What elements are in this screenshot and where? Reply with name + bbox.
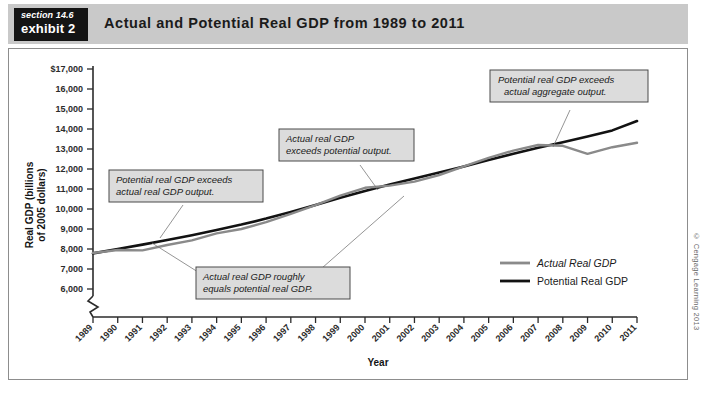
x-tick-label: 2002 [395, 322, 416, 343]
callout-line2: equals potential real GDP. [203, 283, 313, 294]
legend: Actual Real GDP Potential Real GDP [500, 257, 628, 287]
callout-potential-exceeds-aggregate: Potential real GDP exceeds actual aggreg… [490, 70, 648, 102]
y-tick-label: 12,000 [55, 164, 83, 174]
callout-line1: Actual real GDP [285, 133, 355, 144]
x-tick-label: 1993 [172, 322, 193, 343]
callout-actual-exceeds-potential: Actual real GDP exceeds potential output… [279, 129, 414, 161]
y-tick-label: 10,000 [55, 204, 83, 214]
x-tick-label: 1998 [296, 322, 317, 343]
x-tick-label: 2000 [345, 322, 366, 343]
x-tick-label: 1992 [147, 322, 168, 343]
callout-line2: actual real GDP output. [116, 186, 214, 197]
callout-line2: exceeds potential output. [286, 145, 392, 156]
x-tick-label: 2001 [370, 322, 391, 343]
y-axis-tick-labels: $17,000 16,000 15,000 14,000 13,000 12,0… [50, 64, 83, 294]
x-tick-label: 2009 [568, 322, 589, 343]
y-tick-label: 9,000 [60, 224, 83, 234]
x-tick-label: 1991 [123, 322, 144, 343]
y-tick-label: 7,000 [60, 264, 83, 274]
callout-potential-exceeds-actual: Potential real GDP exceeds actual real G… [109, 170, 263, 202]
y-tick-label: $17,000 [50, 64, 83, 74]
callout-line2: actual aggregate output. [504, 86, 606, 97]
leader-line [152, 243, 198, 272]
legend-label-potential: Potential Real GDP [537, 275, 628, 287]
x-tick-label: 1989 [73, 322, 94, 343]
x-tick-label: 1996 [246, 322, 267, 343]
x-tick-label: 2007 [518, 322, 539, 343]
x-tick-label: 2011 [618, 322, 639, 343]
chart-canvas: $17,000 16,000 15,000 14,000 13,000 12,0… [0, 0, 703, 395]
leader-line [322, 196, 404, 268]
x-tick-label: 2003 [419, 322, 440, 343]
y-tick-label: 14,000 [55, 124, 83, 134]
x-axis-tick-labels: 1989199019911992199319941995199619971998… [73, 322, 638, 343]
x-tick-label: 2004 [444, 322, 465, 343]
y-tick-label: 8,000 [60, 244, 83, 254]
callout-line1: Potential real GDP exceeds [498, 74, 615, 85]
x-axis-ticks [93, 317, 637, 323]
x-tick-label: 2005 [469, 322, 490, 343]
y-tick-label: 11,000 [56, 184, 83, 194]
x-tick-label: 2006 [494, 322, 515, 343]
axis-break-zigzag [88, 296, 98, 317]
callout-line1: Potential real GDP exceeds [116, 174, 233, 185]
x-tick-label: 1997 [271, 322, 292, 343]
y-tick-label: 15,000 [55, 104, 83, 114]
x-tick-label: 1995 [222, 322, 243, 343]
x-axis-title: Year [367, 357, 388, 368]
legend-label-actual: Actual Real GDP [536, 257, 616, 269]
leader-line [160, 205, 183, 238]
y-axis-title-line2: of 2005 dollars) [36, 168, 47, 241]
y-tick-label: 16,000 [55, 84, 83, 94]
y-tick-label: 6,000 [60, 284, 83, 294]
callout-line1: Actual real GDP roughly [202, 271, 306, 282]
x-tick-label: 2008 [543, 322, 564, 343]
exhibit-figure: section 14.6 exhibit 2 Actual and Potent… [0, 0, 703, 395]
x-tick-label: 1990 [98, 322, 119, 343]
y-axis-ticks [87, 69, 93, 289]
x-tick-label: 2010 [592, 322, 613, 343]
x-tick-label: 1994 [197, 322, 218, 343]
copyright-notice: © Cengage Learning 2013 [692, 232, 701, 330]
x-tick-label: 1999 [320, 322, 341, 343]
callout-actual-equals-potential: Actual real GDP roughly equals potential… [196, 267, 350, 299]
y-axis-title-line1: Real GDP (billions [24, 161, 35, 248]
y-tick-label: 13,000 [55, 144, 83, 154]
